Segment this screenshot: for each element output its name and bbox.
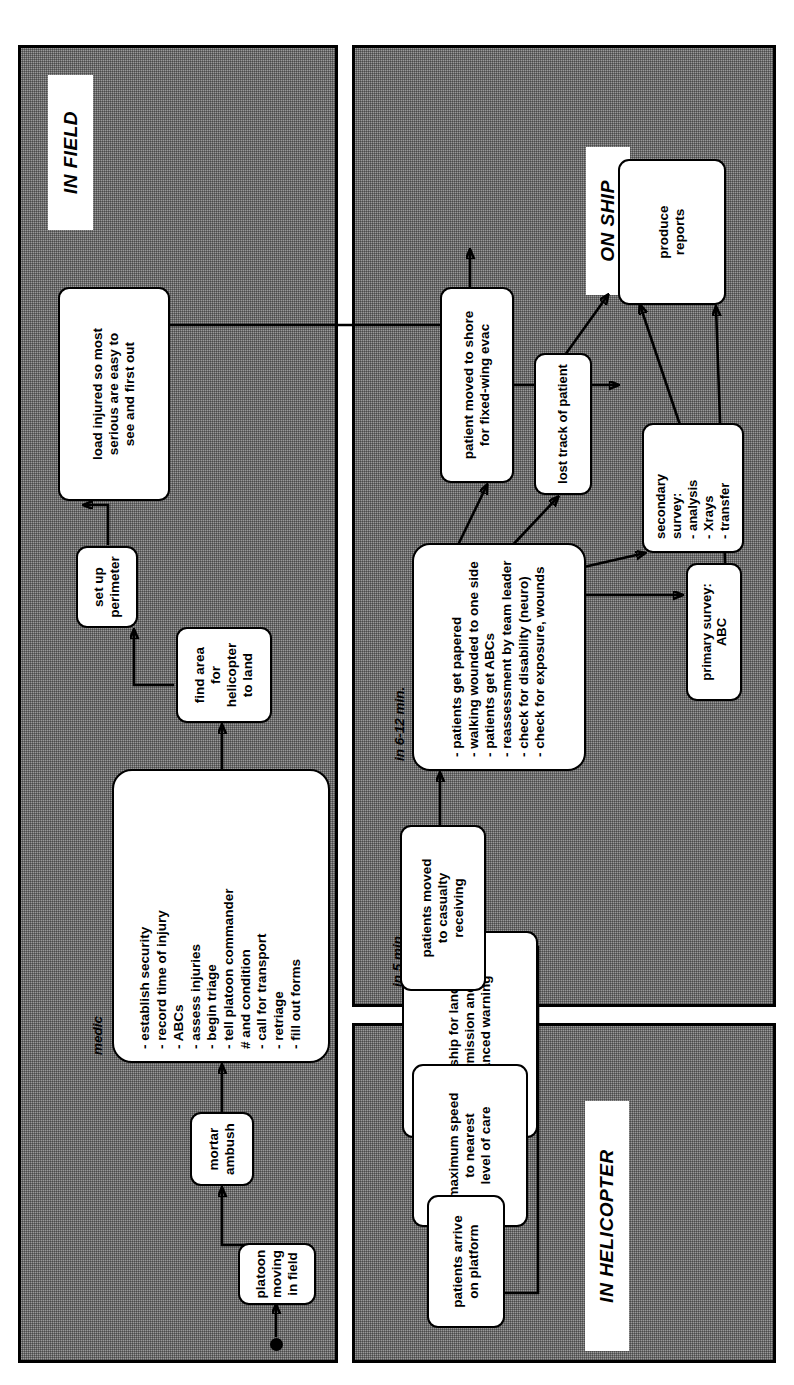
node-secondary-survey[interactable]: secondary survey: - analysis - Xrays - t… (642, 423, 744, 553)
node-platoon-moving[interactable]: platoon moving in field (238, 1243, 316, 1305)
link-secondary-to-reports (640, 305, 680, 425)
node-patients-arrive[interactable]: patients arrive on platform (427, 1195, 505, 1328)
node-patient-moved-shore[interactable]: patient moved to shore for fixed-wing ev… (440, 287, 514, 483)
node-primary-survey[interactable]: primary survey: ABC (686, 563, 742, 701)
link-traumabay-to-shore (458, 485, 487, 545)
start-node-dot (270, 1338, 283, 1351)
node-load-injured[interactable]: load injured so most serious are easy to… (58, 287, 170, 501)
link-platoon-to-mortar (222, 1188, 258, 1245)
caption-medic: medic (90, 1016, 105, 1055)
caption-in-6-12-min: in 6-12 min. (392, 687, 407, 761)
node-lost-track[interactable]: lost track of patient (534, 353, 592, 495)
diagram-stage: IN FIELD IN HELICOPTER ON SHIP (0, 0, 794, 1385)
node-medic-tasks[interactable]: - establish security - record time of in… (112, 769, 330, 1063)
node-find-area[interactable]: find area for helicopter to land (176, 627, 272, 723)
node-trauma-bay-tasks[interactable]: - patients get papered - walking wounded… (412, 543, 586, 771)
node-produce-reports[interactable]: produce reports (618, 159, 726, 305)
link-findarea-to-perimeter (134, 630, 174, 685)
node-set-up-perimeter[interactable]: set up perimeter (76, 546, 138, 628)
node-mortar-ambush[interactable]: mortar ambush (190, 1112, 254, 1186)
node-patients-moved-casualty[interactable]: patients moved to casualty receiving (400, 825, 486, 991)
link-perimeter-to-load (84, 505, 108, 545)
link-losttrack-to-reports (565, 295, 608, 355)
link-load-to-radio (170, 250, 470, 325)
